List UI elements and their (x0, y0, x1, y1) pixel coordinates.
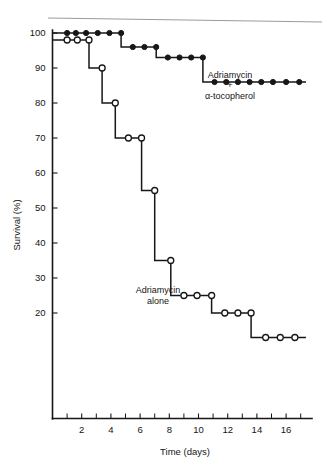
x-axis-ticks: 246810121416 (67, 414, 301, 435)
data-point (95, 30, 100, 35)
data-point (292, 335, 298, 341)
x-tick-label-4: 4 (108, 424, 113, 435)
data-point (64, 37, 70, 43)
data-point (181, 293, 187, 299)
data-point (139, 135, 145, 141)
x-tick-label-16: 16 (281, 424, 292, 435)
data-point (212, 79, 217, 84)
data-point (270, 79, 275, 84)
data-point (74, 37, 80, 43)
data-point (200, 55, 205, 60)
data-point (65, 30, 70, 35)
series-annotation: α-tocopherol (205, 91, 255, 101)
data-point (130, 44, 135, 49)
y-tick-label-90: 90 (35, 62, 46, 73)
data-point (165, 55, 170, 60)
page-top-rule (48, 18, 322, 22)
x-tick-label-14: 14 (252, 424, 263, 435)
y-axis-ticks: 1009080706050403020 (30, 27, 58, 318)
data-point (297, 79, 302, 84)
series-annotation: alone (147, 296, 169, 306)
data-point (168, 258, 174, 264)
data-point (177, 55, 182, 60)
data-point (119, 30, 124, 35)
y-tick-label-50: 50 (35, 202, 46, 213)
series-annotation: Adriamycin (136, 285, 181, 295)
data-point (259, 79, 264, 84)
data-point (235, 310, 241, 316)
data-point (142, 44, 147, 49)
x-tick-label-6: 6 (137, 424, 142, 435)
data-point (263, 335, 269, 341)
data-point (112, 100, 118, 106)
data-point (247, 79, 252, 84)
data-point (209, 293, 215, 299)
y-tick-label-100: 100 (30, 27, 46, 38)
axes (53, 30, 313, 419)
x-tick-label-12: 12 (222, 424, 233, 435)
y-tick-label-70: 70 (35, 132, 46, 143)
y-tick-label-80: 80 (35, 97, 46, 108)
data-point (154, 44, 159, 49)
y-axis-title: Survival (%) (11, 199, 22, 250)
data-point (125, 135, 131, 141)
series-annotation: + (227, 80, 232, 90)
y-tick-label-40: 40 (35, 237, 46, 248)
data-point (99, 65, 105, 71)
data-point (107, 30, 112, 35)
y-tick-label-60: 60 (35, 167, 46, 178)
x-tick-label-8: 8 (167, 424, 172, 435)
data-point (222, 310, 228, 316)
series-annotation: Adriamycin (208, 70, 253, 80)
data-point (83, 30, 88, 35)
data-point (86, 37, 92, 43)
survival-curve-chart: 1009080706050403020 246810121416 Time (d… (0, 0, 322, 461)
data-point (284, 79, 289, 84)
data-point (189, 55, 194, 60)
data-point (152, 188, 158, 194)
data-point (194, 293, 200, 299)
data-point (73, 30, 78, 35)
x-tick-label-10: 10 (193, 424, 204, 435)
x-tick-label-2: 2 (79, 424, 84, 435)
y-tick-label-20: 20 (35, 307, 46, 318)
data-point (235, 79, 240, 84)
x-axis-title: Time (days) (160, 446, 210, 457)
chart-page: 1009080706050403020 246810121416 Time (d… (0, 0, 322, 461)
data-point (248, 310, 254, 316)
data-point (277, 335, 283, 341)
y-tick-label-30: 30 (35, 272, 46, 283)
